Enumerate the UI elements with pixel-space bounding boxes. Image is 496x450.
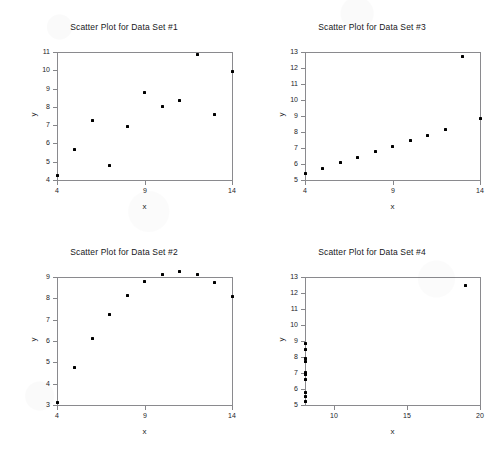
y-tick-label: 11 bbox=[35, 48, 50, 55]
data-point bbox=[196, 273, 199, 276]
y-tick bbox=[301, 293, 305, 294]
y-tick-label: 13 bbox=[283, 273, 298, 280]
x-tick bbox=[145, 406, 146, 410]
y-tick bbox=[53, 277, 57, 278]
x-tick-label: 9 bbox=[135, 412, 155, 419]
data-point bbox=[231, 295, 234, 298]
data-point bbox=[161, 105, 164, 108]
y-tick-label: 12 bbox=[283, 289, 298, 296]
data-point bbox=[461, 55, 464, 58]
y-tick-label: 5 bbox=[283, 176, 298, 183]
scatter-panel-4: Scatter Plot for Data Set #4567891011121… bbox=[248, 225, 496, 450]
data-point bbox=[304, 342, 307, 345]
x-tick-label: 9 bbox=[383, 187, 403, 194]
data-point bbox=[304, 395, 307, 398]
y-tick bbox=[53, 341, 57, 342]
data-point bbox=[73, 366, 76, 369]
x-axis-label: x bbox=[305, 427, 480, 436]
data-point bbox=[444, 128, 447, 131]
y-tick bbox=[53, 298, 57, 299]
data-point bbox=[178, 99, 181, 102]
plot-frame bbox=[305, 277, 481, 406]
data-point bbox=[391, 145, 394, 148]
x-tick-label: 15 bbox=[397, 412, 417, 419]
data-point bbox=[374, 150, 377, 153]
y-tick bbox=[301, 100, 305, 101]
x-tick bbox=[232, 181, 233, 185]
y-tick bbox=[53, 384, 57, 385]
chart-title: Scatter Plot for Data Set #1 bbox=[0, 22, 248, 32]
data-point bbox=[126, 125, 129, 128]
y-tick-label: 6 bbox=[283, 385, 298, 392]
y-tick-label: 7 bbox=[283, 369, 298, 376]
y-tick-label: 6 bbox=[283, 160, 298, 167]
scatter-panel-2: Scatter Plot for Data Set #234567894914y… bbox=[0, 225, 248, 450]
data-point bbox=[108, 313, 111, 316]
y-axis-label: y bbox=[277, 95, 286, 135]
data-point bbox=[321, 167, 324, 170]
plot-frame bbox=[57, 277, 233, 406]
y-tick bbox=[301, 164, 305, 165]
data-point bbox=[108, 164, 111, 167]
data-point bbox=[178, 270, 181, 273]
y-tick-label: 5 bbox=[35, 158, 50, 165]
figure-canvas: Scatter Plot for Data Set #1456789101149… bbox=[0, 0, 496, 450]
x-tick bbox=[305, 181, 306, 185]
y-tick bbox=[53, 125, 57, 126]
y-tick bbox=[301, 116, 305, 117]
y-tick bbox=[53, 107, 57, 108]
data-point bbox=[56, 174, 59, 177]
data-point bbox=[91, 119, 94, 122]
chart-title: Scatter Plot for Data Set #2 bbox=[0, 247, 248, 257]
y-tick-label: 5 bbox=[283, 401, 298, 408]
chart-title: Scatter Plot for Data Set #4 bbox=[248, 247, 496, 257]
y-tick bbox=[53, 89, 57, 90]
y-tick-label: 12 bbox=[283, 64, 298, 71]
data-point bbox=[213, 113, 216, 116]
y-tick bbox=[301, 52, 305, 53]
x-tick-label: 14 bbox=[470, 187, 490, 194]
data-point bbox=[409, 139, 412, 142]
x-axis-label: x bbox=[305, 202, 480, 211]
data-point bbox=[479, 117, 482, 120]
y-tick bbox=[301, 309, 305, 310]
y-tick bbox=[53, 70, 57, 71]
y-tick-label: 8 bbox=[35, 294, 50, 301]
y-tick-label: 6 bbox=[35, 139, 50, 146]
x-tick-label: 4 bbox=[47, 187, 67, 194]
y-tick bbox=[53, 52, 57, 53]
data-point bbox=[304, 391, 307, 394]
y-tick-label: 4 bbox=[35, 380, 50, 387]
y-tick bbox=[53, 320, 57, 321]
data-point bbox=[304, 400, 307, 403]
y-tick bbox=[301, 68, 305, 69]
scatter-panel-3: Scatter Plot for Data Set #3567891011121… bbox=[248, 0, 496, 225]
x-tick bbox=[232, 406, 233, 410]
data-point bbox=[161, 273, 164, 276]
y-tick bbox=[301, 405, 305, 406]
data-point bbox=[304, 357, 307, 360]
data-point bbox=[464, 284, 467, 287]
data-point bbox=[196, 53, 199, 56]
x-tick-label: 14 bbox=[222, 412, 242, 419]
y-tick bbox=[301, 277, 305, 278]
y-axis-label: y bbox=[29, 95, 38, 135]
y-tick bbox=[301, 132, 305, 133]
x-tick-label: 20 bbox=[470, 412, 490, 419]
y-axis-label: y bbox=[29, 320, 38, 360]
y-tick bbox=[301, 148, 305, 149]
x-tick bbox=[57, 181, 58, 185]
y-tick bbox=[53, 143, 57, 144]
y-tick bbox=[301, 389, 305, 390]
x-tick bbox=[57, 406, 58, 410]
data-point bbox=[304, 348, 307, 351]
data-point bbox=[304, 373, 307, 376]
y-tick bbox=[301, 84, 305, 85]
x-tick bbox=[480, 181, 481, 185]
x-tick-label: 14 bbox=[222, 187, 242, 194]
x-tick-label: 4 bbox=[47, 412, 67, 419]
data-point bbox=[356, 156, 359, 159]
data-point bbox=[56, 401, 59, 404]
x-tick bbox=[334, 406, 335, 410]
y-tick-label: 9 bbox=[35, 273, 50, 280]
